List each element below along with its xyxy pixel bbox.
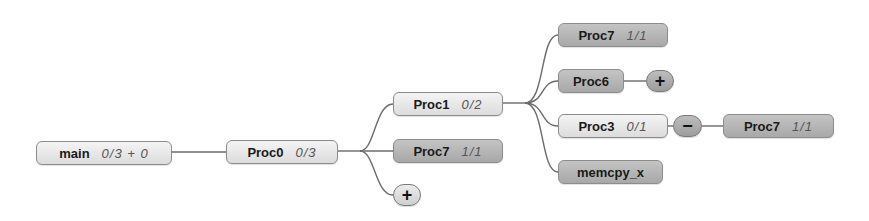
collapse-button[interactable]: − xyxy=(673,115,702,137)
minus-icon: − xyxy=(682,117,693,135)
expand-button[interactable]: + xyxy=(646,70,674,92)
node-count: 1/1 xyxy=(627,28,648,43)
edge-proc1-proc3 xyxy=(525,103,558,126)
node-name: Proc7 xyxy=(413,144,449,159)
node-name: main xyxy=(59,146,89,161)
edge-proc1-proc6 xyxy=(525,81,558,103)
node-proc7-leaf[interactable]: Proc7 1/1 xyxy=(723,114,834,138)
node-count: 1/1 xyxy=(792,119,813,134)
edge-proc0-proc1 xyxy=(360,104,393,151)
node-name: Proc3 xyxy=(578,119,614,134)
node-name: memcpy_x xyxy=(577,165,644,180)
node-name: Proc6 xyxy=(573,74,609,89)
node-name: Proc7 xyxy=(744,119,780,134)
node-count: 0/3 xyxy=(296,145,317,160)
edge-proc0-expand xyxy=(360,151,393,195)
node-main[interactable]: main 0/3 + 0 xyxy=(36,141,172,165)
node-name: Proc1 xyxy=(413,97,449,112)
node-count: 1/1 xyxy=(462,144,483,159)
node-proc7-leaf[interactable]: Proc7 1/1 xyxy=(393,139,503,163)
node-proc0[interactable]: Proc0 0/3 xyxy=(226,140,338,164)
plus-icon: + xyxy=(655,72,666,90)
node-count: 0/2 xyxy=(462,97,483,112)
node-count: 0/1 xyxy=(627,119,648,134)
expand-button[interactable]: + xyxy=(393,184,421,206)
plus-icon: + xyxy=(402,186,413,204)
node-proc7-leaf[interactable]: Proc7 1/1 xyxy=(558,23,668,47)
node-memcpy-x[interactable]: memcpy_x xyxy=(558,160,663,184)
node-proc3[interactable]: Proc3 0/1 xyxy=(558,114,668,138)
node-count: 0/3 + 0 xyxy=(102,146,149,161)
node-proc1[interactable]: Proc1 0/2 xyxy=(393,92,503,116)
node-proc6[interactable]: Proc6 xyxy=(558,69,624,93)
call-tree-diagram: main 0/3 + 0 Proc0 0/3 Proc1 0/2 Proc7 1… xyxy=(0,0,869,221)
node-name: Proc7 xyxy=(578,28,614,43)
node-name: Proc0 xyxy=(247,145,283,160)
